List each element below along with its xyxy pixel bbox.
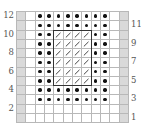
slash-icon (54, 77, 62, 85)
purl-dot-cell (36, 31, 45, 40)
slash-stitch-cell (54, 58, 63, 67)
purl-dot-cell (45, 95, 54, 104)
blank-cell (36, 105, 45, 114)
slash-icon (64, 58, 72, 66)
slash-stitch-cell (64, 31, 73, 40)
purl-dot-cell (45, 68, 54, 77)
purl-dot-cell (36, 40, 45, 49)
blank-cell (110, 12, 119, 21)
edge-cell (17, 77, 26, 86)
purl-dot-cell (92, 40, 101, 49)
edge-cell (17, 12, 26, 21)
blank-cell (26, 58, 35, 67)
blank-cell (110, 31, 119, 40)
slash-stitch-cell (64, 68, 73, 77)
row-number-label: 4 (2, 85, 14, 94)
purl-dot-cell (92, 12, 101, 21)
slash-stitch-cell (64, 77, 73, 86)
row-number-label: 5 (131, 76, 141, 85)
slash-stitch-cell (73, 40, 82, 49)
blank-cell (26, 49, 35, 58)
purl-dot-cell (101, 31, 110, 40)
blank-cell (26, 105, 35, 114)
edge-cell (17, 86, 26, 95)
slash-stitch-cell (64, 58, 73, 67)
purl-dot-cell (45, 12, 54, 21)
slash-icon (64, 49, 72, 57)
purl-dot-cell (101, 95, 110, 104)
blank-cell (64, 105, 73, 114)
slash-icon (54, 49, 62, 57)
slash-icon (73, 40, 81, 48)
purl-dot-cell (101, 86, 110, 95)
purl-dot-cell (54, 86, 63, 95)
blank-cell (26, 40, 35, 49)
purl-dot-cell (101, 21, 110, 30)
slash-icon (82, 77, 90, 85)
edge-cell (17, 40, 26, 49)
purl-dot-cell (36, 21, 45, 30)
row-number-label: 8 (2, 48, 14, 57)
row-number-label: 3 (131, 94, 141, 103)
slash-stitch-cell (73, 31, 82, 40)
purl-dot-cell (82, 21, 91, 30)
slash-stitch-cell (54, 77, 63, 86)
slash-stitch-cell (73, 68, 82, 77)
edge-cell (17, 114, 26, 123)
slash-stitch-cell (54, 68, 63, 77)
purl-dot-cell (36, 49, 45, 58)
slash-icon (54, 40, 62, 48)
edge-cell (120, 49, 129, 58)
edge-cell (17, 31, 26, 40)
row-number-label: 11 (131, 20, 141, 29)
edge-cell (120, 21, 129, 30)
purl-dot-cell (36, 95, 45, 104)
purl-dot-cell (45, 49, 54, 58)
purl-dot-cell (36, 58, 45, 67)
blank-cell (110, 58, 119, 67)
slash-icon (54, 68, 62, 76)
slash-icon (82, 58, 90, 66)
blank-cell (110, 86, 119, 95)
blank-cell (26, 31, 35, 40)
edge-cell (17, 95, 26, 104)
purl-dot-cell (101, 49, 110, 58)
purl-dot-cell (92, 31, 101, 40)
blank-cell (92, 105, 101, 114)
purl-dot-cell (54, 12, 63, 21)
blank-cell (54, 114, 63, 123)
purl-dot-cell (45, 40, 54, 49)
blank-cell (110, 77, 119, 86)
blank-cell (110, 21, 119, 30)
purl-dot-cell (73, 95, 82, 104)
slash-stitch-cell (64, 40, 73, 49)
slash-icon (73, 68, 81, 76)
slash-icon (73, 49, 81, 57)
slash-icon (73, 31, 81, 39)
blank-cell (110, 105, 119, 114)
slash-icon (82, 68, 90, 76)
purl-dot-cell (36, 12, 45, 21)
purl-dot-cell (101, 12, 110, 21)
blank-cell (26, 68, 35, 77)
purl-dot-cell (92, 58, 101, 67)
edge-cell (120, 95, 129, 104)
blank-cell (54, 105, 63, 114)
slash-icon (82, 40, 90, 48)
blank-cell (64, 114, 73, 123)
blank-cell (73, 114, 82, 123)
purl-dot-cell (36, 68, 45, 77)
blank-cell (101, 105, 110, 114)
slash-stitch-cell (82, 49, 91, 58)
purl-dot-cell (54, 95, 63, 104)
edge-cell (17, 105, 26, 114)
purl-dot-cell (82, 95, 91, 104)
blank-cell (45, 114, 54, 123)
chart-grid (16, 11, 129, 123)
slash-icon (54, 31, 62, 39)
blank-cell (92, 114, 101, 123)
purl-dot-cell (64, 12, 73, 21)
edge-cell (120, 58, 129, 67)
edge-cell (17, 21, 26, 30)
slash-stitch-cell (54, 49, 63, 58)
